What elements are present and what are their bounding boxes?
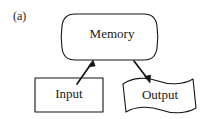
output-label: Output <box>142 87 179 102</box>
diagram-canvas: (a) Memory Input Output <box>0 0 208 119</box>
node-output: Output <box>123 78 196 112</box>
connector-memory-to-output-line <box>134 61 147 78</box>
node-input: Input <box>35 78 103 112</box>
panel-label: (a) <box>13 9 26 23</box>
node-memory: Memory <box>61 14 158 60</box>
connector-input-to-memory-arrowhead <box>88 60 95 67</box>
figure-panel-a: (a) Memory Input Output <box>0 0 208 119</box>
input-label: Input <box>55 86 83 101</box>
memory-label: Memory <box>90 26 135 41</box>
